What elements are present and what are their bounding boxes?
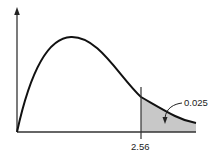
critical-value-label: 2.56 <box>131 142 150 152</box>
y-axis-arrow-icon <box>14 7 20 15</box>
density-chart <box>0 0 217 163</box>
tail-area-label: 0.025 <box>184 98 208 108</box>
